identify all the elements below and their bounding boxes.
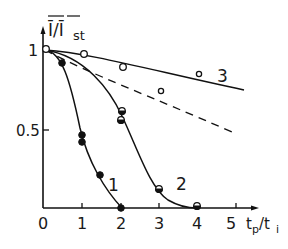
x-tick-5: 5 <box>226 214 236 233</box>
curve-1-label: 1 <box>108 175 119 195</box>
svg-text:/t: /t <box>259 215 270 233</box>
x-axis-label: t p /t i <box>246 215 279 236</box>
dashed-reference-curve <box>45 50 232 132</box>
svg-text:st: st <box>73 28 85 43</box>
x-axis-arrow <box>251 206 259 211</box>
svg-text:Ī/Ī: Ī/Ī <box>48 19 64 40</box>
curve-2 <box>45 50 197 208</box>
curve-3 <box>45 50 244 90</box>
chart: 1 0.5 0 1 2 3 4 5 Ī/Ī st t p /t i <box>0 0 288 249</box>
x-tick-4: 4 <box>192 214 202 233</box>
svg-text:p: p <box>252 223 259 236</box>
x-tick-2: 2 <box>116 214 126 233</box>
ticks <box>43 130 236 208</box>
curve-2-label: 2 <box>176 174 187 194</box>
x-tick-1: 1 <box>77 214 87 233</box>
y-axis-label: Ī/Ī st <box>48 16 85 43</box>
x-tick-0: 0 <box>38 214 48 233</box>
svg-text:i: i <box>276 223 279 236</box>
curve-2-markers <box>118 108 201 210</box>
y-axis-arrow <box>41 26 46 34</box>
y-tick-1: 1 <box>28 41 38 60</box>
x-tick-3: 3 <box>154 214 164 233</box>
curve-3-label: 3 <box>217 66 228 86</box>
y-tick-05: 0.5 <box>16 122 40 140</box>
